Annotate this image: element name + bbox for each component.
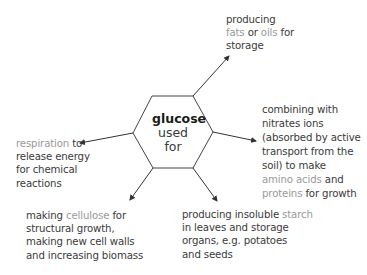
highlighted-term: fats (226, 27, 245, 38)
text-segment: soil) to make (262, 160, 326, 171)
glucose-title: glucose (152, 112, 194, 126)
branch-line: release energy (16, 150, 90, 163)
arrow-to-cellulose (130, 168, 153, 200)
highlighted-term: amino acids (262, 174, 322, 185)
branch-starch: producing insoluble starchin leaves and … (182, 208, 313, 261)
arrow-to-proteins (213, 132, 256, 141)
branch-line: proteins for growth (262, 187, 361, 201)
text-segment: producing insoluble (182, 209, 282, 220)
branch-line: structural growth, (26, 222, 143, 235)
text-segment: or (245, 27, 261, 38)
text-segment: making (26, 210, 66, 221)
branch-line: (absorbed by active (262, 131, 361, 145)
branch-line: making new cell walls (26, 235, 143, 248)
text-segment: structural growth, (26, 223, 115, 234)
branch-fats: producingfats or oils forstorage (226, 13, 294, 53)
glucose-label: glucose used for (152, 112, 194, 154)
text-segment: release energy (16, 151, 90, 162)
branch-line: in leaves and storage (182, 221, 313, 234)
branch-cellulose: making cellulose forstructural growth,ma… (26, 209, 143, 262)
branch-line: reactions (16, 177, 90, 190)
highlighted-term: cellulose (66, 210, 109, 221)
branch-line: fats or oils for (226, 26, 294, 39)
branch-line: transport from the (262, 145, 361, 159)
highlighted-term: respiration (16, 138, 69, 149)
branch-line: producing insoluble starch (182, 208, 313, 221)
branch-line: for chemical (16, 163, 90, 176)
text-segment: and (322, 174, 344, 185)
text-segment: for (277, 27, 294, 38)
branch-line: soil) to make (262, 159, 361, 173)
text-segment: reactions (16, 178, 62, 189)
glucose-for: for (152, 140, 194, 154)
branch-line: producing (226, 13, 294, 26)
text-segment: and seeds (182, 249, 233, 260)
text-segment: transport from the (262, 146, 353, 157)
text-segment: for (109, 210, 126, 221)
text-segment: making new cell walls (26, 236, 135, 247)
branch-line: organs, e.g. potatoes (182, 234, 313, 247)
text-segment: (absorbed by active (262, 132, 361, 143)
highlighted-term: oils (261, 27, 278, 38)
text-segment: to (69, 138, 82, 149)
branch-line: making cellulose for (26, 209, 143, 222)
arrow-to-fats (193, 56, 229, 96)
branch-respiration: respiration torelease energyfor chemical… (16, 137, 90, 190)
branch-line: and increasing biomass (26, 249, 143, 262)
highlighted-term: proteins (262, 188, 302, 199)
arrow-to-starch (193, 168, 217, 201)
text-segment: producing (226, 14, 276, 25)
text-segment: for chemical (16, 164, 77, 175)
branch-line: nitrates ions (262, 117, 361, 131)
text-segment: organs, e.g. potatoes (182, 235, 287, 246)
text-segment: storage (226, 40, 264, 51)
branch-line: and seeds (182, 248, 313, 261)
branch-line: amino acids and (262, 173, 361, 187)
text-segment: in leaves and storage (182, 222, 289, 233)
branch-line: respiration to (16, 137, 90, 150)
text-segment: and increasing biomass (26, 250, 143, 261)
branch-proteins: combining withnitrates ions(absorbed by … (262, 103, 361, 201)
text-segment: nitrates ions (262, 118, 323, 129)
text-segment: combining with (262, 104, 338, 115)
text-segment: for growth (302, 188, 356, 199)
highlighted-term: starch (282, 209, 313, 220)
glucose-used: used (152, 126, 194, 140)
branch-line: combining with (262, 103, 361, 117)
branch-line: storage (226, 39, 294, 52)
